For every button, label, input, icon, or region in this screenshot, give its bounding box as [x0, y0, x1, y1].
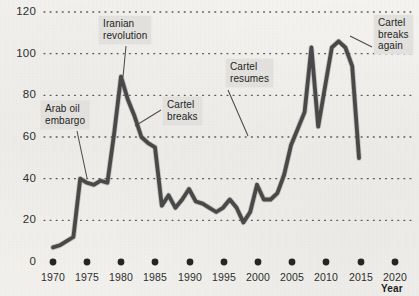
- price-series-line: [53, 41, 359, 247]
- annotation-iranian-revolution: Iranian revolution: [99, 16, 151, 44]
- y-tick-label-60: 60: [2, 130, 36, 142]
- leader-cartel-resumes: [228, 90, 248, 136]
- annotation-cartel-breaks-again: Cartel breaks again: [374, 15, 413, 54]
- chart-plot-area: [0, 0, 419, 296]
- leader-iranian-revolution: [123, 46, 126, 77]
- x-axis-title: Year: [381, 283, 403, 294]
- annotation-cartel-resumes: Cartel resumes: [226, 59, 273, 87]
- y-tick-label-20: 20: [2, 213, 36, 225]
- leader-cartel-breaks-again: [350, 36, 372, 47]
- x-tick-label-2020: 2020: [375, 271, 415, 283]
- y-tick-label-120: 120: [2, 5, 36, 17]
- x-axis-tick-dots: [50, 259, 399, 266]
- y-tick-label-40: 40: [2, 172, 36, 184]
- oil-price-chart: 120 100 80 60 40 20 0 1970 1975 1980 198…: [0, 0, 419, 296]
- y-tick-label-0: 0: [2, 255, 36, 267]
- y-tick-label-100: 100: [2, 47, 36, 59]
- x-tick-label-1985: 1985: [135, 271, 175, 283]
- x-tick-label-2010: 2010: [306, 271, 346, 283]
- annotation-cartel-breaks: Cartel breaks: [163, 97, 202, 125]
- annotation-arab-oil-embargo: Arab oil embargo: [41, 101, 89, 129]
- leader-arab-oil-embargo: [77, 131, 87, 178]
- y-tick-label-80: 80: [2, 88, 36, 100]
